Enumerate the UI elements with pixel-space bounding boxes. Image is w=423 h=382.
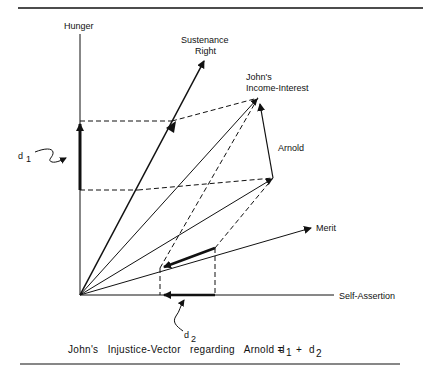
d1-pointer-squiggle <box>35 149 66 162</box>
dashed-construction-lines <box>80 98 273 295</box>
arnold-label: Arnold <box>278 143 304 153</box>
d1-label: d <box>18 151 23 161</box>
caption-d2-subscript: 2 <box>316 348 322 359</box>
caption-d1-subscript: 1 <box>286 347 292 358</box>
caption-d1: d <box>279 344 285 355</box>
arnold-vector <box>80 179 272 295</box>
sustenance-right-label-line2: Right <box>195 46 217 56</box>
injustice-vector-diagram: Hunger Self-Assertion Sustenance Right J… <box>0 0 423 382</box>
sustenance-right-label-line1: Sustenance <box>181 35 229 45</box>
arnold-to-john-vector <box>260 104 273 178</box>
d1-label-subscript: 1 <box>26 154 31 164</box>
d2-label: d <box>184 330 189 340</box>
hunger-axis-label: Hunger <box>64 21 94 31</box>
caption-plus: + <box>296 344 302 355</box>
caption-text: John's Injustice-Vector regarding Arnold… <box>68 344 284 355</box>
merit-vector <box>80 228 311 295</box>
john-income-interest-label-line2: Income-Interest <box>246 83 309 93</box>
d2-pointer-squiggle <box>174 300 184 331</box>
caption-d2: d <box>309 344 315 355</box>
merit-label: Merit <box>316 223 336 233</box>
john-income-interest-label-line1: John's <box>246 72 272 82</box>
d2-label-subscript: 2 <box>191 334 196 344</box>
merit-difference-vector <box>164 248 215 267</box>
self-assertion-axis-label: Self-Assertion <box>339 291 395 301</box>
